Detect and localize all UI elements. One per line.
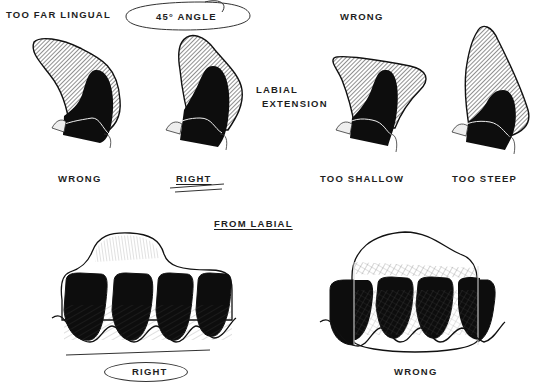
caption-wrong: WRONG [58,173,101,184]
right-arrow-marks [170,184,224,192]
wrong-header-label: WRONG [340,11,383,22]
caption-too-shallow: TOO SHALLOW [320,173,404,184]
angle-label: 45° ANGLE [156,11,217,22]
tooth-profile-too-shallow [333,57,426,152]
labial-extension-label-line2: EXTENSION [262,98,328,109]
tooth-profile-too-steep [452,26,529,154]
labial-extension-label-line1: LABIAL [256,84,298,95]
caption-right: RIGHT [176,173,212,184]
labial-caption-wrong: WRONG [394,366,437,377]
too-far-lingual-label: TOO FAR LINGUAL [6,9,111,20]
diagram-artwork [0,0,540,383]
caption-too-steep: TOO STEEP [452,173,517,184]
section-title-from-labial: FROM LABIAL [214,218,293,229]
labial-caption-right: RIGHT [132,366,168,377]
labial-view-wrong [320,232,505,352]
tooth-profile-too-far-lingual [33,39,120,148]
tooth-profile-right [166,36,242,150]
